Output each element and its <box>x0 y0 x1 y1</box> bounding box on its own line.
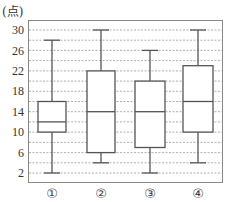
box <box>135 81 165 147</box>
y-tick-18: 18 <box>12 84 24 98</box>
y-tick-26: 26 <box>12 44 24 58</box>
box <box>38 102 66 133</box>
category-label-3: ③ <box>144 186 156 201</box>
y-tick-10: 10 <box>12 125 24 139</box>
y-tick-14: 14 <box>12 105 24 119</box>
y-tick-22: 22 <box>12 64 24 78</box>
box-plot-chart: (点) 30 26 22 18 14 10 6 2 <box>0 0 230 202</box>
y-axis-ticks: 30 26 22 18 14 10 6 2 <box>12 23 24 180</box>
category-label-4: ④ <box>192 186 204 201</box>
box <box>183 66 213 132</box>
y-axis-unit-label: (点) <box>2 5 23 19</box>
x-axis-categories: ① ② ③ ④ <box>46 186 204 201</box>
y-tick-6: 6 <box>18 146 24 160</box>
y-tick-30: 30 <box>12 23 24 37</box>
y-tick-2: 2 <box>18 166 24 180</box>
category-label-1: ① <box>46 186 58 201</box>
category-label-2: ② <box>95 186 107 201</box>
